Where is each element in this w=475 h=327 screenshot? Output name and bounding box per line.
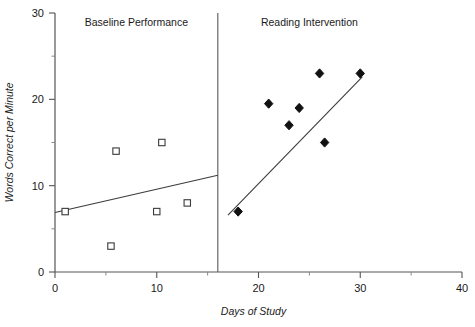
data-point-1-3[interactable] (295, 103, 303, 112)
y-tick-label-20: 20 (32, 93, 44, 105)
data-point-0-2[interactable] (113, 148, 119, 154)
y-axis-title: Words Correct per Minute (3, 82, 15, 202)
data-point-1-1[interactable] (264, 99, 272, 108)
x-axis-title: Days of Study (221, 305, 287, 317)
phase-annotation-1: Reading Intervention (261, 16, 358, 28)
y-tick-label-0: 0 (38, 266, 44, 278)
x-tick-label-10: 10 (151, 282, 163, 294)
phase-annotation-0: Baseline Performance (85, 16, 188, 28)
x-tick-label-0: 0 (52, 282, 58, 294)
data-point-0-3[interactable] (154, 208, 160, 214)
x-tick-label-40: 40 (456, 282, 468, 294)
data-point-1-5[interactable] (320, 138, 328, 147)
x-tick-label-20: 20 (252, 282, 264, 294)
y-tick-label-10: 10 (32, 180, 44, 192)
trend-line-series-1 (228, 77, 362, 215)
chart-canvas: 0102030400102030Baseline PerformanceRead… (0, 0, 475, 327)
trend-line-series-0 (55, 175, 218, 212)
data-point-0-0[interactable] (62, 208, 68, 214)
x-tick-label-30: 30 (354, 282, 366, 294)
data-point-1-6[interactable] (356, 69, 364, 78)
data-point-0-1[interactable] (108, 243, 114, 249)
data-point-1-2[interactable] (285, 121, 293, 130)
data-point-0-4[interactable] (159, 139, 165, 145)
y-tick-label-30: 30 (32, 7, 44, 19)
data-point-1-4[interactable] (315, 69, 323, 78)
scatter-chart: 0102030400102030Baseline PerformanceRead… (0, 0, 475, 327)
data-point-0-5[interactable] (184, 200, 190, 206)
